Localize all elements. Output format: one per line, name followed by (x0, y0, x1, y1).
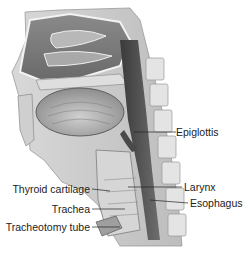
label-tracheotomy-tube: Tracheotomy tube (2, 221, 90, 233)
label-esophagus: Esophagus (190, 197, 243, 209)
lips (18, 94, 34, 146)
label-thyroid-cartilage: Thyroid cartilage (10, 183, 90, 195)
label-trachea: Trachea (10, 203, 90, 215)
label-epiglottis: Epiglottis (176, 126, 219, 138)
label-larynx: Larynx (184, 181, 216, 193)
tongue (36, 88, 124, 136)
